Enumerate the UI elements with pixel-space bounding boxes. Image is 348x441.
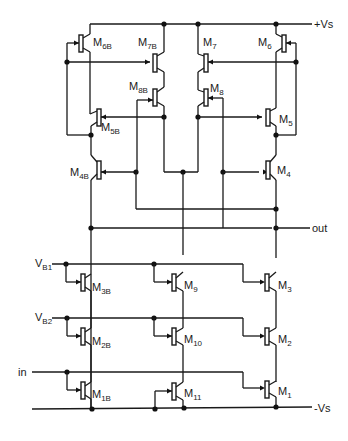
transistor-m3 (265, 272, 276, 328)
label-m4b: M4B (70, 167, 89, 178)
node-dot (293, 59, 298, 64)
positive-supply-label: +Vs (314, 19, 333, 30)
label-m5: M5 (279, 114, 293, 125)
circuit-schematic: .tl { position:absolute; font-family:"Li… (0, 0, 348, 441)
label-m8: M8 (210, 83, 224, 94)
label-m9: M9 (184, 280, 198, 291)
label-m3: M3 (278, 280, 292, 291)
node-dot (152, 406, 157, 411)
node-dot (161, 21, 166, 26)
label-m7: M7 (203, 37, 217, 48)
schematic-drawing (0, 0, 348, 441)
node-dot (88, 225, 93, 230)
transistor-m5 (266, 108, 276, 155)
node-dot (181, 405, 186, 410)
transistor-m2 (265, 328, 276, 382)
label-m1: M1 (278, 386, 292, 397)
vb1-label: VB1 (35, 258, 52, 269)
label-m6: M6 (258, 37, 272, 48)
node-dot (89, 406, 94, 411)
transistor-m8 (198, 89, 223, 172)
label-m6b: M6B (93, 37, 112, 48)
label-m11: M11 (184, 388, 201, 399)
transistor-m8b (137, 87, 164, 172)
negative-supply-label: -Vs (314, 403, 331, 414)
label-m10: M10 (184, 334, 202, 345)
transistor-m1b (67, 372, 91, 409)
label-m5b: M5B (101, 122, 120, 133)
transistor-m7 (198, 24, 296, 90)
node-dot (64, 59, 69, 64)
label-m4: M4 (277, 165, 291, 176)
node-dot (88, 132, 93, 137)
label-m1b: M1B (92, 389, 111, 400)
node-dot (195, 21, 200, 26)
label-m3b: M3B (92, 282, 111, 293)
vb2-label: VB2 (35, 312, 52, 323)
transistor-m7b (153, 24, 164, 87)
input-label: in (18, 367, 27, 378)
node-dot (273, 21, 278, 26)
transistor-m6b (67, 24, 90, 114)
node-dot (273, 404, 278, 409)
node-dot (273, 206, 278, 211)
label-m8b: M8B (129, 81, 148, 92)
transistor-m1 (265, 381, 276, 407)
output-label: out (312, 223, 327, 234)
label-m2b: M2B (92, 336, 111, 347)
transistor-m4 (266, 155, 276, 258)
node-dot (273, 132, 278, 137)
label-m7b: M7B (138, 37, 157, 48)
negative-rail (32, 407, 312, 409)
transistor-m11 (155, 382, 183, 409)
label-m2: M2 (278, 334, 292, 345)
